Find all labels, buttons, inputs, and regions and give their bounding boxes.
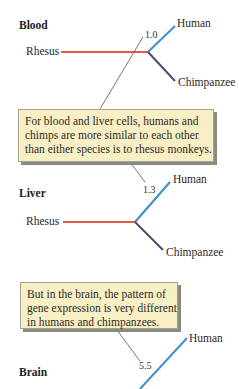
brain-distance-value: 5.5	[139, 361, 152, 371]
blood-chimp-branch	[148, 52, 175, 81]
liver-callout-line	[130, 162, 145, 182]
brain-callout-line	[117, 330, 140, 361]
blood-rhesus-label: Rhesus	[26, 46, 59, 58]
note-line: than either species is to rhesus monkeys…	[25, 142, 207, 156]
blood-distance-value: 1.0	[145, 30, 158, 40]
note-line: chimps are more similar to each other	[25, 128, 207, 142]
blood-chimpanzee-label: Chimpanzee	[178, 77, 235, 89]
note-blood-liver: For blood and liver cells, humans and ch…	[18, 109, 214, 162]
brain-human-label: Human	[189, 333, 223, 345]
section-title-liver: Liver	[19, 188, 46, 200]
liver-chimp-branch	[135, 222, 163, 250]
liver-human-label: Human	[173, 174, 207, 186]
liver-rhesus-label: Rhesus	[26, 216, 59, 228]
section-title-brain: Brain	[19, 367, 47, 379]
section-title-blood: Blood	[19, 20, 48, 32]
liver-chimpanzee-label: Chimpanzee	[166, 247, 223, 259]
blood-callout-line	[100, 37, 143, 109]
note-line: in humans and chimpanzees.	[27, 315, 171, 329]
note-brain: But in the brain, the pattern of gene ex…	[20, 282, 178, 329]
note-line: For blood and liver cells, humans and	[25, 114, 207, 128]
blood-human-label: Human	[177, 18, 211, 30]
note-line: gene expression is very different	[27, 301, 171, 315]
note-line: But in the brain, the pattern of	[27, 287, 171, 301]
liver-distance-value: 1.3	[143, 185, 156, 195]
